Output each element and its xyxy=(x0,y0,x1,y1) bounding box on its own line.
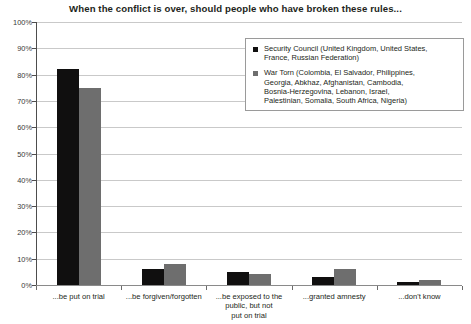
y-axis-tick xyxy=(32,101,36,102)
x-axis-line xyxy=(36,285,462,286)
y-axis-tick xyxy=(32,75,36,76)
bar xyxy=(57,69,79,285)
legend-label-line: Security Council (United Kingdom, United… xyxy=(264,44,427,53)
y-axis-tick xyxy=(32,180,36,181)
x-axis-category-label: ...be forgiven/forgotten xyxy=(121,292,206,301)
x-axis-tick xyxy=(377,286,378,290)
bar xyxy=(79,88,101,285)
chart-title: When the conflict is over, should people… xyxy=(0,3,471,14)
x-axis-tick xyxy=(206,286,207,290)
y-axis-tick xyxy=(32,232,36,233)
legend-entry: Security Council (United Kingdom, United… xyxy=(250,44,458,62)
y-axis-tick-label: 100% xyxy=(2,18,32,27)
y-axis-labels: 100%90%80%70%60%50%40%30%20%10%0% xyxy=(0,0,32,324)
x-axis-label-line: ...be forgiven/forgotten xyxy=(121,292,206,301)
legend-label: Security Council (United Kingdom, United… xyxy=(264,44,427,62)
legend-swatch-icon xyxy=(253,71,258,76)
y-axis-tick xyxy=(32,285,36,286)
bar xyxy=(164,264,186,285)
bar xyxy=(312,277,334,285)
y-axis-tick-label: 10% xyxy=(2,254,32,263)
x-axis-category-label: ...be exposed to thepublic, but notput o… xyxy=(206,292,291,320)
chart-legend: Security Council (United Kingdom, United… xyxy=(245,38,464,111)
x-axis-category-label: ...be put on trial xyxy=(36,292,121,301)
legend-label-line: Bosnia-Herzegovina, Lebanon, Israel, xyxy=(264,87,415,96)
legend-label-line: War Torn (Colombia, El Salvador, Philipp… xyxy=(264,68,415,77)
x-axis-tick xyxy=(292,286,293,290)
y-axis-tick-label: 80% xyxy=(2,70,32,79)
x-axis-tick xyxy=(121,286,122,290)
x-axis-category-label: ...granted amnesty xyxy=(292,292,377,301)
x-axis-label-line: public, but not xyxy=(206,301,291,310)
x-axis-label-line: ...don't know xyxy=(377,292,462,301)
y-axis-tick xyxy=(32,22,36,23)
x-axis-tick xyxy=(36,286,37,290)
x-axis-tick xyxy=(462,286,463,290)
bar xyxy=(249,274,271,285)
y-axis-tick-label: 30% xyxy=(2,202,32,211)
y-axis-tick-label: 20% xyxy=(2,228,32,237)
x-axis-label-line: ...be exposed to the xyxy=(206,292,291,301)
y-axis-tick-label: 0% xyxy=(2,281,32,290)
x-axis-label-line: ...granted amnesty xyxy=(292,292,377,301)
y-axis-tick-label: 40% xyxy=(2,175,32,184)
legend-entry: War Torn (Colombia, El Salvador, Philipp… xyxy=(250,68,458,105)
bar xyxy=(334,269,356,285)
y-axis-tick xyxy=(32,48,36,49)
legend-label: War Torn (Colombia, El Salvador, Philipp… xyxy=(264,68,415,105)
y-axis-tick xyxy=(32,127,36,128)
bar xyxy=(142,269,164,285)
bar xyxy=(227,272,249,285)
y-axis-tick xyxy=(32,154,36,155)
y-axis-tick xyxy=(32,259,36,260)
bar-chart: When the conflict is over, should people… xyxy=(0,0,471,324)
y-axis-tick-label: 90% xyxy=(2,44,32,53)
legend-label-line: Palestinian, Somalia, South Africa, Nige… xyxy=(264,96,415,105)
legend-label-line: France, Russian Federation) xyxy=(264,53,427,62)
y-axis-tick-label: 50% xyxy=(2,149,32,158)
y-axis-tick-label: 70% xyxy=(2,96,32,105)
y-axis-tick-label: 60% xyxy=(2,123,32,132)
y-axis-tick xyxy=(32,206,36,207)
x-axis-category-label: ...don't know xyxy=(377,292,462,301)
legend-swatch-icon xyxy=(253,47,258,52)
legend-label-line: Georgia, Abkhaz, Afghanistan, Cambodia, xyxy=(264,78,415,87)
x-axis-label-line: ...be put on trial xyxy=(36,292,121,301)
x-axis-label-line: put on trial xyxy=(206,311,291,320)
